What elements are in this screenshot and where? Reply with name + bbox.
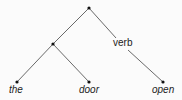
edge-root-np bbox=[53, 8, 89, 44]
edge-np-the bbox=[17, 44, 53, 82]
edge-root-verb bbox=[89, 8, 116, 38]
leaf-label-open: open bbox=[152, 84, 174, 95]
edge-np-door bbox=[53, 44, 89, 82]
root-node bbox=[87, 6, 90, 9]
edge-verb-open bbox=[128, 50, 163, 82]
leaf-label-door: door bbox=[79, 84, 99, 95]
leaf-label-the: the bbox=[9, 84, 23, 95]
verb-label: verb bbox=[113, 37, 132, 48]
np-node bbox=[51, 42, 54, 45]
